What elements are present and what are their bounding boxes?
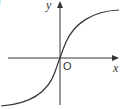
x-axis-label: x bbox=[113, 62, 118, 74]
partial-label: ) bbox=[0, 0, 1, 7]
y-axis-arrow-icon bbox=[57, 1, 63, 8]
origin-label: O bbox=[63, 61, 72, 72]
graph-figure: ) y O x bbox=[0, 0, 122, 109]
y-axis-label: y bbox=[46, 0, 51, 11]
graph-canvas bbox=[0, 0, 122, 109]
